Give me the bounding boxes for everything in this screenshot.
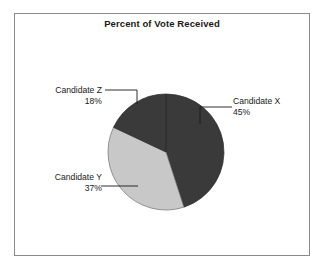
callout-candidate-x-label: Candidate X [233,96,280,106]
callout-candidate-x-percent: 45% [233,107,317,118]
leader-line-candidate-z [105,90,137,104]
pie-graphic [0,0,324,276]
callout-candidate-z-percent: 18% [34,96,102,107]
callout-candidate-x: Candidate X 45% [233,96,317,118]
callout-candidate-y-percent: 37% [30,183,102,194]
callout-candidate-z: Candidate Z 18% [34,85,102,107]
pie-chart-screenshot: Percent of Vote Received Candidate Z 18%… [0,0,324,276]
callout-candidate-y: Candidate Y 37% [30,172,102,194]
callout-candidate-y-label: Candidate Y [55,172,102,182]
callout-candidate-z-label: Candidate Z [55,85,102,95]
